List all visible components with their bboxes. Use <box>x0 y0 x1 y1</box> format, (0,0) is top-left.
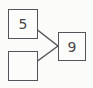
sum-box: 9 <box>58 32 86 61</box>
addend-known-value: 5 <box>19 17 28 31</box>
connector-line-top <box>38 30 59 46</box>
number-bond-diagram: 5 9 <box>0 0 93 88</box>
connector-line-bottom <box>38 46 59 61</box>
addend-known-box: 5 <box>8 9 38 39</box>
addend-unknown-box <box>8 51 38 81</box>
sum-value: 9 <box>68 39 77 53</box>
